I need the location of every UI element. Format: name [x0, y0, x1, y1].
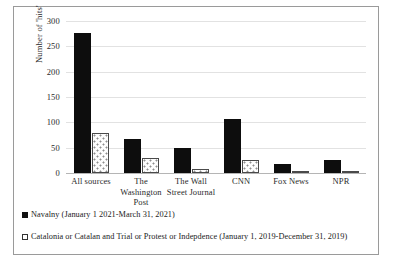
y-tick-label-50: 50	[51, 143, 60, 153]
legend-swatch-filled-square-icon	[22, 212, 28, 218]
x-axis-label-line: The	[116, 176, 166, 187]
bar-navalny[interactable]	[124, 139, 141, 173]
y-tick-label-250: 250	[47, 41, 60, 51]
x-axis-label: TheWashingtonPost	[116, 176, 166, 208]
bars-layer	[66, 21, 366, 173]
x-axis-label: All sources	[66, 176, 116, 208]
x-axis-label: Fox News	[266, 176, 316, 208]
legend-item-catalonia: Catalonia or Catalan and Trial or Protes…	[22, 232, 372, 241]
x-axis-label-line: Street Journal	[166, 187, 216, 198]
legend-label-navalny: Navalny (January 1 2021-March 31, 2021)	[31, 210, 175, 219]
plot-area: 050100150200250300	[66, 21, 366, 173]
bar-catalonia[interactable]	[92, 133, 109, 173]
y-tick-label-0: 0	[56, 168, 60, 178]
bar-navalny[interactable]	[224, 119, 241, 173]
y-tick-label-200: 200	[47, 67, 60, 77]
figure-frame: Number of 'hits' 050100150200250300 All …	[13, 6, 379, 255]
x-axis-label-line: Post	[116, 197, 166, 208]
bar-catalonia[interactable]	[142, 158, 159, 173]
x-axis-labels: All sourcesTheWashingtonPostThe WallStre…	[66, 176, 366, 208]
legend-swatch-hollow-square-icon	[22, 234, 28, 240]
bar-catalonia[interactable]	[292, 171, 309, 173]
y-tick-label-150: 150	[47, 92, 60, 102]
x-axis-label-line: All sources	[66, 176, 116, 187]
bar-catalonia[interactable]	[242, 160, 259, 173]
x-axis-label-line: Washington	[116, 187, 166, 198]
y-tick-label-100: 100	[47, 117, 60, 127]
bar-group	[66, 21, 116, 173]
bar-navalny[interactable]	[174, 148, 191, 173]
x-axis-label: NPR	[316, 176, 366, 208]
bar-navalny[interactable]	[74, 33, 91, 173]
x-axis-label: The WallStreet Journal	[166, 176, 216, 208]
y-axis-title: Number of 'hits'	[34, 5, 44, 63]
gridline-0: 0	[66, 173, 366, 174]
x-axis-label-line: The Wall	[166, 176, 216, 187]
bar-navalny[interactable]	[274, 164, 291, 173]
x-axis-label: CNN	[216, 176, 266, 208]
legend-label-catalonia: Catalonia or Catalan and Trial or Protes…	[31, 232, 347, 241]
bar-group	[316, 21, 366, 173]
bar-group	[266, 21, 316, 173]
bar-group	[216, 21, 266, 173]
x-axis-label-line: CNN	[216, 176, 266, 187]
bar-navalny[interactable]	[324, 160, 341, 173]
legend-item-navalny: Navalny (January 1 2021-March 31, 2021)	[22, 210, 372, 219]
chart-legend: Navalny (January 1 2021-March 31, 2021) …	[22, 210, 372, 254]
bar-group	[166, 21, 216, 173]
bar-group	[116, 21, 166, 173]
bar-catalonia[interactable]	[192, 169, 209, 173]
bar-catalonia[interactable]	[342, 171, 359, 173]
x-axis-label-line: NPR	[316, 176, 366, 187]
x-axis-label-line: Fox News	[266, 176, 316, 187]
y-tick-label-300: 300	[47, 16, 60, 26]
